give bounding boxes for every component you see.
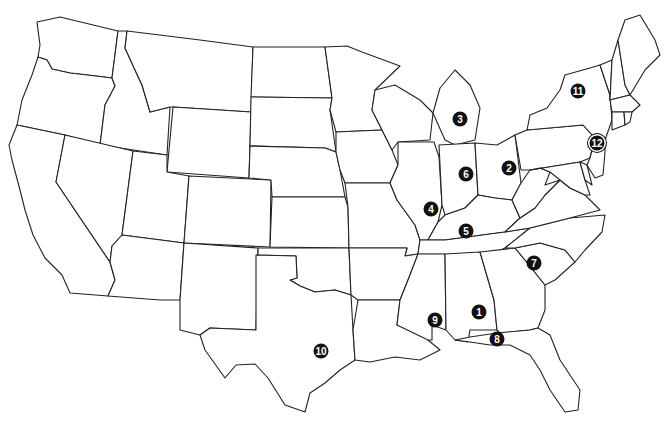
state-south-dakota: [250, 97, 336, 152]
state-colorado: [184, 176, 271, 247]
location-marker-11: 11: [571, 84, 586, 99]
location-marker-12: 12: [590, 136, 605, 151]
us-states-map: [0, 0, 669, 442]
location-marker-8: 8: [490, 332, 505, 347]
state-florida: [455, 328, 580, 412]
state-maine: [618, 15, 660, 95]
location-marker-7: 7: [527, 256, 542, 271]
location-marker-2: 2: [502, 161, 517, 176]
location-marker-1: 1: [472, 305, 487, 320]
location-marker-6: 6: [459, 167, 474, 182]
state-north-dakota: [251, 47, 332, 98]
state-kansas: [270, 197, 349, 248]
location-marker-10: 10: [314, 344, 329, 359]
state-new-mexico: [180, 243, 258, 335]
location-marker-5: 5: [459, 224, 474, 239]
location-marker-3: 3: [453, 112, 468, 127]
location-marker-4: 4: [424, 202, 439, 217]
location-marker-9: 9: [428, 313, 443, 328]
state-connecticut: [612, 112, 625, 130]
state-michigan: [433, 70, 480, 145]
state-arizona: [108, 235, 184, 300]
state-rhode-island: [624, 112, 632, 125]
state-wyoming: [167, 107, 251, 178]
